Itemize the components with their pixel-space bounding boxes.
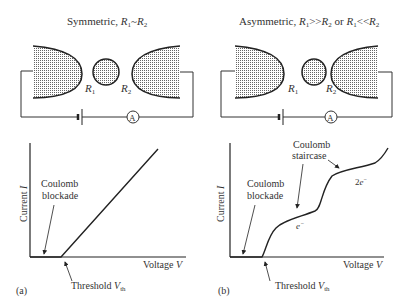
step-label-2e: 2e−	[355, 176, 368, 187]
panel-b-title: Asymmetric, R1>>R2 or R1<<R2	[239, 15, 380, 29]
threshold-label: Threshold Vth	[275, 280, 330, 293]
svg-text:A: A	[327, 113, 334, 123]
panel-a-iv-plot: Current I Voltage V Coulomb blockade Thr…	[16, 143, 186, 297]
coulomb-blockade-diagram: Symmetric, R1~R2 R1 R2 A Current I Volta…	[0, 0, 411, 305]
iv-curve-linear	[30, 149, 158, 257]
step-label-e: e−	[296, 220, 304, 231]
panel-label-a: (a)	[16, 285, 27, 297]
right-electrode	[132, 46, 180, 98]
panel-b-schematic: Asymmetric, R1>>R2 or R1<<R2 R1 R2 A	[221, 15, 392, 125]
svg-text:A: A	[129, 113, 136, 123]
r1-label: R1	[84, 82, 96, 96]
x-axis-label: Voltage V	[343, 259, 384, 270]
svg-text:blockade: blockade	[247, 190, 284, 201]
panel-a-schematic: Symmetric, R1~R2 R1 R2 A	[21, 15, 193, 125]
x-axis-label: Voltage V	[143, 259, 184, 270]
annotation-coulomb-blockade: Coulomb	[41, 178, 78, 189]
threshold-arrow	[265, 262, 270, 281]
threshold-arrow	[65, 262, 72, 281]
svg-text:staircase: staircase	[292, 150, 327, 161]
panel-label-b: (b)	[218, 285, 230, 297]
panel-b-iv-plot: Current I Voltage V Coulomb blockade Cou…	[215, 139, 388, 297]
svg-text:blockade: blockade	[42, 190, 79, 201]
annotation-coulomb-staircase: Coulomb	[293, 139, 330, 150]
quantum-dot-island	[302, 59, 326, 85]
r2-label: R2	[120, 82, 132, 96]
threshold-label: Threshold Vth	[71, 280, 126, 293]
iv-curve-staircase	[230, 148, 388, 257]
panel-a-title: Symmetric, R1~R2	[67, 15, 148, 29]
y-axis-label: Current I	[215, 185, 226, 222]
r1-label: R1	[287, 82, 299, 96]
annotation-coulomb-blockade: Coulomb	[247, 178, 284, 189]
quantum-dot-island	[93, 59, 119, 85]
y-axis-label: Current I	[18, 185, 29, 222]
left-electrode	[33, 46, 82, 98]
